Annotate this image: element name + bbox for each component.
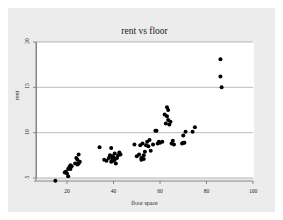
x-tick-label: 40 <box>105 188 123 194</box>
data-point <box>193 125 197 129</box>
data-point <box>191 130 195 134</box>
data-point <box>78 160 82 164</box>
data-point <box>182 141 186 145</box>
data-point <box>160 140 164 144</box>
data-point <box>53 179 57 183</box>
data-point <box>172 142 176 146</box>
data-point <box>142 153 146 157</box>
x-tick-label: 60 <box>151 188 169 194</box>
x-axis-title: floor space <box>36 200 253 206</box>
data-point <box>220 85 224 89</box>
chart-title: rent vs floor <box>36 25 253 37</box>
data-point <box>165 114 169 118</box>
data-point <box>113 152 117 156</box>
data-point <box>149 149 153 153</box>
data-point <box>155 129 159 133</box>
x-tick-label: 80 <box>198 188 216 194</box>
data-point <box>141 142 145 146</box>
y-tick-label: 10 <box>24 125 30 139</box>
data-point <box>181 133 185 137</box>
data-point <box>114 161 118 165</box>
data-point <box>171 139 175 143</box>
data-point <box>148 138 152 142</box>
tickmarks <box>33 42 253 184</box>
y-tick-label: 15 <box>24 79 30 93</box>
data-point <box>77 152 81 156</box>
x-tick-label: 100 <box>244 188 262 194</box>
data-point <box>118 152 122 156</box>
data-point <box>184 130 188 134</box>
data-point <box>132 142 136 146</box>
scatter-points <box>53 57 223 182</box>
y-axis-title: rent <box>14 91 20 100</box>
data-point <box>66 174 70 178</box>
y-tick-label: 20 <box>24 34 30 48</box>
data-point <box>98 145 102 149</box>
data-point <box>109 146 113 150</box>
data-point <box>142 157 146 161</box>
data-point <box>70 164 74 168</box>
data-point <box>164 122 168 126</box>
data-point <box>218 74 222 78</box>
data-point <box>143 150 147 154</box>
x-tick-label: 20 <box>58 188 76 194</box>
figure-root: rent vs floor floor space rent 5101520 2… <box>0 0 283 220</box>
y-tick-label: 5 <box>24 170 30 184</box>
data-point <box>146 144 150 148</box>
data-point <box>168 120 172 124</box>
data-point <box>218 57 222 61</box>
data-point <box>166 108 170 112</box>
data-point <box>151 142 155 146</box>
data-point <box>137 152 141 156</box>
